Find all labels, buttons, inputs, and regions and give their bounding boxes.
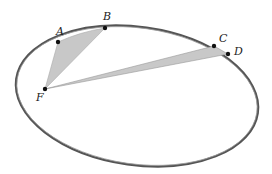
label-c: C	[219, 32, 228, 45]
label-f: F	[35, 91, 44, 104]
label-d: D	[233, 45, 243, 58]
point-c	[212, 44, 216, 48]
point-d	[226, 52, 230, 56]
orbit-diagram: A B C D F	[0, 0, 272, 174]
label-b: B	[102, 10, 111, 23]
label-a: A	[55, 25, 64, 38]
point-b	[103, 26, 107, 30]
orbit-ellipse-inner	[8, 12, 267, 174]
point-a	[56, 40, 60, 44]
